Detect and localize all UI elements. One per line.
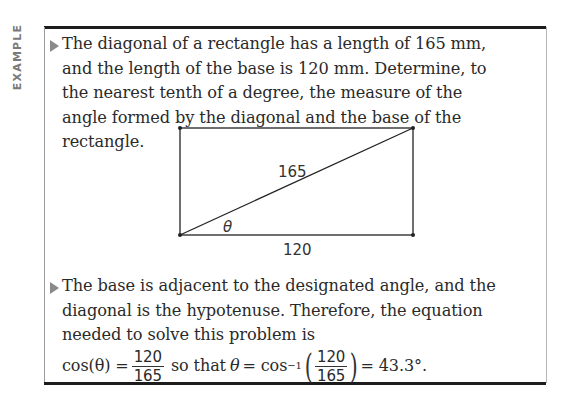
equation: cos(θ) = 120 165 so that θ = cos−1 ( 120… <box>62 348 427 385</box>
bullet-arrow-icon <box>50 282 59 294</box>
angle-label: θ <box>223 218 232 236</box>
bullet-arrow-icon <box>50 40 59 52</box>
example-label: EXAMPLE <box>2 22 32 92</box>
fraction-1: 120 165 <box>132 348 164 385</box>
fraction-2: 120 165 <box>315 348 347 385</box>
base-label: 120 <box>283 241 312 255</box>
solution-text: The base is adjacent to the designated a… <box>62 274 502 385</box>
rectangle-diagram: 165 θ 120 <box>170 120 430 255</box>
diagonal-label: 165 <box>278 163 307 181</box>
